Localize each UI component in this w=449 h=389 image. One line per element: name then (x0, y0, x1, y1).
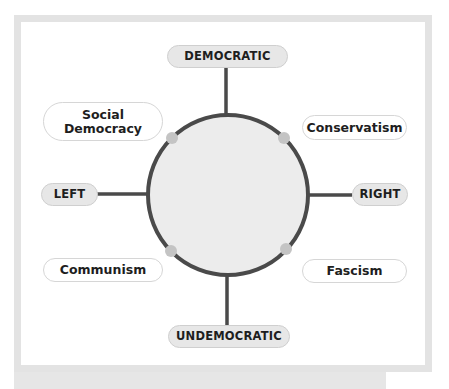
node-dot-bottom-left (165, 245, 177, 257)
axis-label-undemocratic: UNDEMOCRATIC (168, 325, 290, 348)
node-dot-bottom-right (280, 243, 292, 255)
node-dot-top-left (166, 132, 178, 144)
ideology-label-conservatism: Conservatism (302, 115, 407, 140)
axis-label-right: RIGHT (352, 183, 408, 206)
axis-label-democratic: DEMOCRATIC (167, 45, 288, 68)
ideology-label-communism: Communism (43, 258, 163, 282)
node-dot-top-right (278, 132, 290, 144)
axis-label-left: LEFT (41, 183, 98, 206)
ideology-label-fascism: Fascism (302, 259, 407, 283)
ideology-label-social-democracy: Social Democracy (43, 102, 163, 141)
